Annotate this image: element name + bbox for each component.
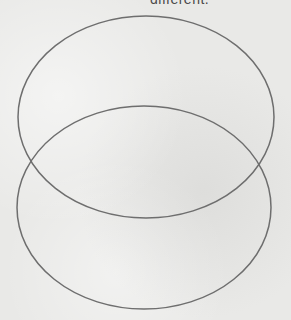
top-ellipse: [18, 16, 274, 218]
bottom-ellipse: [17, 106, 271, 309]
venn-diagram: [0, 0, 291, 320]
